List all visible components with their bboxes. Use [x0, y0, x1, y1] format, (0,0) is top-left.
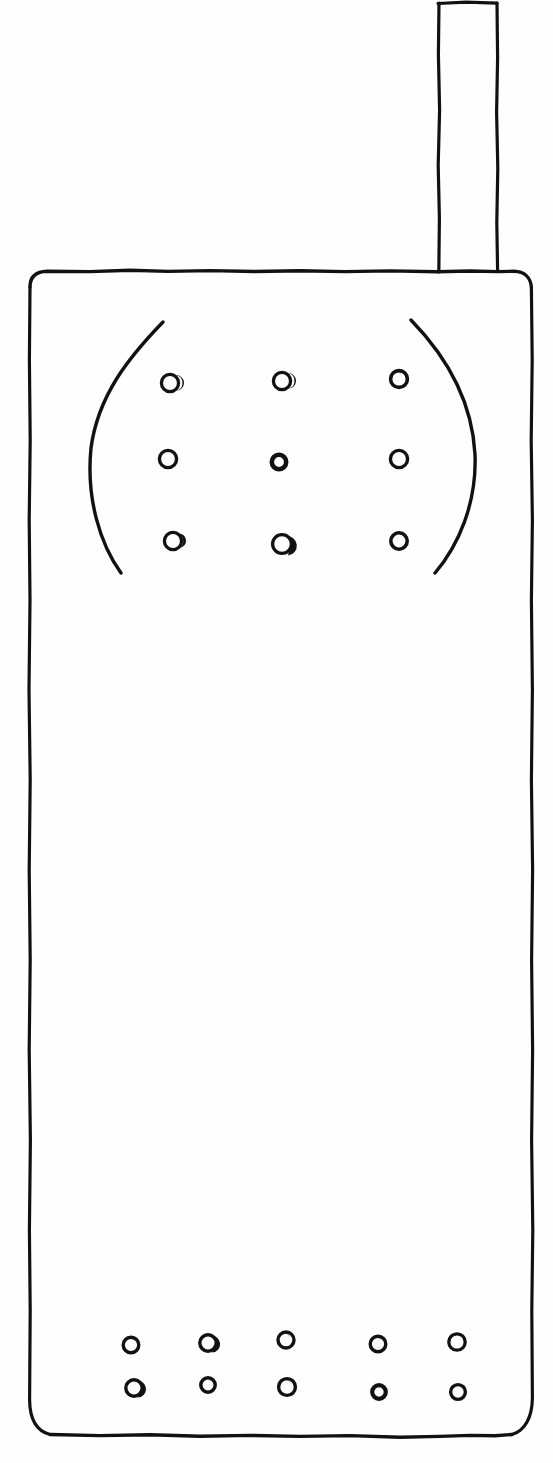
bottom-dot[interactable] — [201, 1378, 215, 1392]
keypad-dot[interactable] — [273, 372, 296, 389]
antenna-top-edge — [438, 2, 497, 3]
antenna-right-edge — [497, 3, 498, 271]
bottom-dot-grid — [123, 1332, 466, 1399]
bottom-dot[interactable] — [370, 1336, 386, 1352]
keypad-dot[interactable] — [164, 532, 186, 549]
keypad-dot[interactable] — [159, 450, 177, 467]
keypad-arc-right-icon — [411, 320, 475, 573]
keypad-dot[interactable] — [391, 533, 407, 549]
keypad-dot[interactable] — [273, 535, 297, 556]
bottom-dot[interactable] — [123, 1337, 139, 1353]
keypad-dot[interactable] — [390, 450, 408, 467]
antenna-left-edge — [438, 3, 439, 272]
body-bottom-edge — [50, 1435, 512, 1438]
bottom-dot[interactable] — [451, 1385, 466, 1400]
drawing-canvas: Hand-drawn mobile phone sketch — [0, 0, 553, 1463]
body-top-edge — [30, 270, 531, 288]
keypad-dot[interactable] — [391, 371, 408, 388]
keypad-arc-left-icon — [90, 322, 163, 573]
bottom-dot[interactable] — [372, 1385, 386, 1399]
bottom-dot[interactable] — [278, 1332, 294, 1348]
body-left-edge — [29, 287, 50, 1435]
keypad-dot-grid — [159, 371, 408, 556]
antenna-group — [438, 2, 498, 272]
phone-body-outline — [29, 270, 533, 1437]
body-right-edge — [512, 288, 533, 1435]
bottom-dot[interactable] — [126, 1380, 146, 1398]
phone-sketch — [0, 0, 553, 1463]
bottom-dot[interactable] — [279, 1379, 296, 1396]
keypad-dot[interactable] — [161, 374, 184, 391]
bottom-dot[interactable] — [449, 1334, 465, 1350]
bottom-dot[interactable] — [200, 1335, 220, 1353]
keypad-dot[interactable] — [272, 455, 286, 469]
